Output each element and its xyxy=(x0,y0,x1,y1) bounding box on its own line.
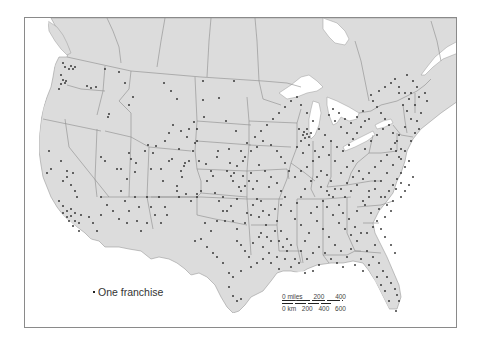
franchise-dot xyxy=(280,156,282,158)
franchise-dot xyxy=(404,126,406,128)
franchise-dot xyxy=(378,262,380,264)
franchise-dot xyxy=(386,276,388,278)
franchise-dot xyxy=(72,172,74,174)
franchise-dot xyxy=(270,144,272,146)
franchise-dot xyxy=(118,71,120,73)
franchise-dot xyxy=(418,128,420,130)
franchise-dot xyxy=(256,198,258,200)
franchise-dot xyxy=(286,250,288,252)
franchise-dot xyxy=(256,180,258,182)
franchise-dot xyxy=(398,92,400,94)
franchise-dot xyxy=(318,246,320,248)
franchise-dot xyxy=(236,240,238,242)
franchise-dot xyxy=(376,276,378,278)
franchise-dot xyxy=(272,118,274,120)
franchise-dot xyxy=(300,104,302,106)
franchise-dot xyxy=(212,175,214,177)
franchise-dot xyxy=(322,146,324,148)
franchise-dot xyxy=(406,110,408,112)
franchise-dot xyxy=(242,175,244,177)
franchise-dot xyxy=(70,65,72,67)
franchise-dot xyxy=(328,194,330,196)
franchise-dot xyxy=(310,180,312,182)
franchise-dot xyxy=(236,300,238,302)
franchise-dot xyxy=(330,180,332,182)
franchise-dot xyxy=(262,140,264,142)
franchise-dot xyxy=(378,90,380,92)
franchise-dot xyxy=(288,170,290,172)
franchise-dot xyxy=(304,272,306,274)
franchise-dot xyxy=(306,258,308,260)
franchise-dot xyxy=(304,188,306,190)
franchise-dot xyxy=(394,142,396,144)
franchise-dot xyxy=(400,158,402,160)
franchise-dot xyxy=(242,160,244,162)
franchise-dot xyxy=(330,140,332,142)
franchise-dot xyxy=(395,188,397,190)
franchise-dot xyxy=(206,246,208,248)
franchise-dot xyxy=(372,226,374,228)
franchise-dot xyxy=(408,184,410,186)
franchise-dot xyxy=(128,210,130,212)
franchise-dot xyxy=(74,190,76,192)
franchise-dot xyxy=(100,196,102,198)
franchise-dot xyxy=(240,190,242,192)
franchise-dot xyxy=(376,134,378,136)
franchise-dot xyxy=(388,300,390,302)
franchise-dot xyxy=(312,160,314,162)
franchise-dot xyxy=(368,172,370,174)
franchise-dot xyxy=(260,200,262,202)
franchise-dot xyxy=(406,74,408,76)
franchise-dot xyxy=(338,112,340,114)
franchise-dot-map[interactable] xyxy=(25,18,457,328)
franchise-dot xyxy=(386,172,388,174)
franchise-dot xyxy=(104,68,106,70)
franchise-dot xyxy=(312,120,314,122)
franchise-dot xyxy=(66,210,68,212)
km-bar xyxy=(282,303,331,304)
franchise-dot xyxy=(306,128,308,130)
franchise-dot xyxy=(342,212,344,214)
franchise-dot xyxy=(264,170,266,172)
franchise-dot xyxy=(270,176,272,178)
franchise-dot xyxy=(340,188,342,190)
franchise-dot xyxy=(258,236,260,238)
franchise-dot xyxy=(258,216,260,218)
scale-miles-200: 200 xyxy=(313,293,324,300)
franchise-dot xyxy=(392,184,394,186)
franchise-dot xyxy=(232,295,234,297)
scale-bar: 0 miles 200 400 0 km 200 400 600 xyxy=(282,293,346,312)
franchise-dot xyxy=(395,310,397,312)
franchise-dot xyxy=(424,92,426,94)
franchise-dot xyxy=(324,134,326,136)
franchise-dot xyxy=(352,176,354,178)
franchise-dot xyxy=(404,190,406,192)
franchise-dot xyxy=(420,112,422,114)
franchise-dot xyxy=(416,86,418,88)
franchise-dot xyxy=(274,208,276,210)
franchise-dot xyxy=(222,262,224,264)
franchise-dot xyxy=(298,262,300,264)
franchise-dot xyxy=(258,164,260,166)
franchise-dot xyxy=(290,100,292,102)
franchise-dot xyxy=(228,286,230,288)
franchise-dot xyxy=(360,232,362,234)
map-frame: One franchise 0 miles 200 400 0 km 200 4… xyxy=(24,17,457,328)
franchise-dot xyxy=(226,210,228,212)
franchise-dot xyxy=(354,226,356,228)
franchise-dot xyxy=(222,210,224,212)
franchise-dot xyxy=(280,190,282,192)
franchise-dot xyxy=(386,154,388,156)
franchise-dot xyxy=(225,120,227,122)
franchise-dot xyxy=(240,150,242,152)
franchise-dot xyxy=(316,176,318,178)
franchise-dot xyxy=(278,112,280,114)
franchise-dot xyxy=(380,160,382,162)
franchise-dot xyxy=(60,83,62,85)
franchise-dot xyxy=(100,156,102,158)
franchise-dot xyxy=(282,246,284,248)
franchise-dot xyxy=(290,266,292,268)
franchise-dot xyxy=(334,244,336,246)
franchise-dot xyxy=(308,144,310,146)
franchise-dot xyxy=(155,145,157,147)
